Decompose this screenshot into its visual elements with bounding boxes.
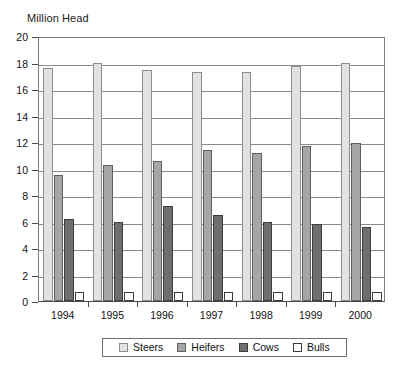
bar-group bbox=[142, 38, 183, 301]
legend-item-bulls[interactable]: Bulls bbox=[293, 342, 330, 353]
y-tick-label: 0 bbox=[22, 297, 28, 307]
x-tick-label: 1994 bbox=[51, 309, 74, 321]
y-tick-label: 18 bbox=[16, 59, 28, 69]
bar-bulls-2000 bbox=[372, 292, 382, 301]
x-tick-mark bbox=[137, 302, 138, 307]
y-tick-label: 6 bbox=[22, 218, 28, 228]
bar-bulls-1996 bbox=[174, 292, 184, 301]
bar-steers-1994 bbox=[43, 68, 53, 301]
bar-cows-1999 bbox=[312, 224, 322, 301]
x-tick-mark bbox=[236, 302, 237, 307]
y-tick-mark bbox=[32, 302, 38, 303]
bar-bulls-1995 bbox=[124, 292, 134, 301]
y-tick-label: 4 bbox=[22, 244, 28, 254]
bar-steers-1998 bbox=[242, 72, 252, 301]
bar-bulls-1994 bbox=[75, 292, 85, 301]
bar-group bbox=[242, 38, 283, 301]
x-tick-label: 1998 bbox=[249, 309, 272, 321]
bar-steers-1999 bbox=[291, 66, 301, 301]
legend-swatch-icon bbox=[239, 343, 248, 352]
legend-item-heifers[interactable]: Heifers bbox=[177, 342, 224, 353]
x-tick-mark bbox=[187, 302, 188, 307]
x-tick-label: 2000 bbox=[349, 309, 372, 321]
x-tick-mark bbox=[88, 302, 89, 307]
bar-cows-1995 bbox=[114, 222, 124, 302]
plot-area bbox=[38, 37, 385, 302]
bar-bulls-1998 bbox=[273, 292, 283, 301]
y-tick-label: 14 bbox=[16, 112, 28, 122]
x-tick-label: 1996 bbox=[150, 309, 173, 321]
bar-heifers-1998 bbox=[252, 153, 262, 301]
bar-group bbox=[192, 38, 233, 301]
bar-heifers-1999 bbox=[302, 146, 312, 301]
bar-chart: Million Head 02468101214161820 199419951… bbox=[0, 0, 408, 369]
legend-swatch-icon bbox=[293, 343, 302, 352]
x-tick-mark bbox=[335, 302, 336, 307]
bar-heifers-1994 bbox=[54, 175, 64, 301]
x-tick-label: 1999 bbox=[299, 309, 322, 321]
bar-cows-1996 bbox=[163, 206, 173, 301]
bar-cows-1994 bbox=[64, 219, 74, 301]
bar-bulls-1999 bbox=[323, 292, 333, 301]
x-tick-label: 1995 bbox=[101, 309, 124, 321]
bar-group bbox=[93, 38, 134, 301]
bar-group bbox=[291, 38, 332, 301]
bar-group bbox=[341, 38, 382, 301]
bar-steers-2000 bbox=[341, 63, 351, 302]
x-tick-mark bbox=[286, 302, 287, 307]
legend-label: Cows bbox=[253, 342, 279, 353]
bar-heifers-1997 bbox=[203, 150, 213, 301]
bar-steers-1995 bbox=[93, 63, 103, 302]
legend-item-steers[interactable]: Steers bbox=[119, 342, 163, 353]
legend-item-cows[interactable]: Cows bbox=[239, 342, 279, 353]
bar-cows-1998 bbox=[263, 222, 273, 302]
y-tick-label: 20 bbox=[16, 32, 28, 42]
bar-cows-1997 bbox=[213, 215, 223, 301]
bar-heifers-1995 bbox=[103, 165, 113, 301]
legend-label: Steers bbox=[133, 342, 163, 353]
y-axis: 02468101214161820 bbox=[0, 0, 38, 369]
bar-steers-1996 bbox=[142, 70, 152, 301]
y-tick-label: 10 bbox=[16, 165, 28, 175]
legend-swatch-icon bbox=[119, 343, 128, 352]
legend-label: Bulls bbox=[307, 342, 330, 353]
y-tick-label: 16 bbox=[16, 85, 28, 95]
y-tick-label: 12 bbox=[16, 138, 28, 148]
x-axis: 1994199519961997199819992000 bbox=[38, 306, 385, 326]
bar-group bbox=[43, 38, 84, 301]
y-tick-label: 2 bbox=[22, 271, 28, 281]
bar-heifers-2000 bbox=[351, 143, 361, 301]
bar-heifers-1996 bbox=[153, 161, 163, 301]
bar-bulls-1997 bbox=[224, 292, 234, 301]
y-tick-label: 8 bbox=[22, 191, 28, 201]
legend-swatch-icon bbox=[177, 343, 186, 352]
bar-steers-1997 bbox=[192, 72, 202, 301]
x-tick-label: 1997 bbox=[200, 309, 223, 321]
bar-cows-2000 bbox=[362, 227, 372, 301]
chart-legend: SteersHeifersCowsBulls bbox=[102, 338, 347, 357]
legend-label: Heifers bbox=[191, 342, 224, 353]
